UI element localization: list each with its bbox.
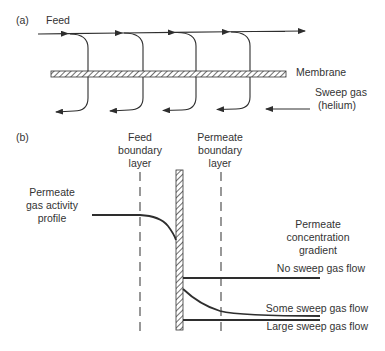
feed-boundary-label: Feed boundary layer <box>118 131 163 169</box>
some-sweep-label: Some sweep gas flow <box>266 302 369 314</box>
activity-profile-label: Permeate gas activity profile <box>26 186 79 224</box>
feed-label: Feed <box>46 14 70 26</box>
svg-text:boundary: boundary <box>118 144 163 156</box>
svg-text:Permeate: Permeate <box>295 218 341 230</box>
membrane-wall <box>176 170 183 330</box>
sweep-gas-label: Sweep gas <box>315 86 367 98</box>
svg-text:gas activity: gas activity <box>26 199 79 211</box>
no-sweep-label: No sweep gas flow <box>277 262 366 274</box>
svg-text:gradient: gradient <box>299 244 337 256</box>
permeate-boundary-label: Permeate boundary layer <box>197 131 243 169</box>
svg-text:Permeate: Permeate <box>197 131 243 143</box>
svg-text:layer: layer <box>129 157 152 169</box>
svg-text:boundary: boundary <box>198 144 243 156</box>
svg-text:concentration: concentration <box>286 231 349 243</box>
svg-text:layer: layer <box>209 157 232 169</box>
panel-a-label: (a) <box>16 14 29 26</box>
svg-text:profile: profile <box>38 212 67 224</box>
panel-b-label: (b) <box>16 131 29 143</box>
concentration-gradient-label: Permeate concentration gradient <box>286 218 349 256</box>
sweep-gas-sublabel: (helium) <box>318 99 356 111</box>
svg-text:Permeate: Permeate <box>29 186 75 198</box>
membrane <box>51 71 286 77</box>
large-sweep-label: Large sweep gas flow <box>266 320 368 332</box>
feed-activity-curve <box>92 215 176 240</box>
membrane-label: Membrane <box>296 66 346 78</box>
svg-text:Feed: Feed <box>128 131 152 143</box>
membrane-sweep-diagram: (a) Feed Membrane Sweep gas (helium) (b)… <box>0 0 385 351</box>
